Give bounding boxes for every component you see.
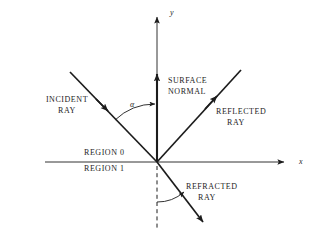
surface-normal-label-line2: NORMAL [168, 87, 226, 97]
angle-alpha-label: α [130, 100, 134, 110]
angle-of-refraction-arc [157, 192, 184, 202]
incident-ray-label-line2: RAY [36, 106, 98, 116]
angle-of-incidence-arc [115, 104, 155, 120]
refracted-ray-line [157, 162, 203, 222]
reflected-ray-label-line1: REFLECTED [216, 107, 286, 117]
refracted-ray-label-line2: RAY [198, 193, 272, 203]
reflected-ray-label-line2: RAY [227, 118, 297, 128]
x-axis-label: x [299, 157, 303, 167]
region-0-label: REGION 0 [84, 148, 148, 158]
surface-normal-label-line1: SURFACE [168, 76, 226, 86]
y-axis-label: y [170, 8, 174, 18]
ray-optics-diagram: y x α INCIDENT RAY SURFACE NORMAL REFLEC… [0, 0, 321, 243]
refracted-ray-label-line1: REFRACTED [186, 182, 260, 192]
incident-ray-label-line1: INCIDENT [36, 95, 98, 105]
region-1-label: REGION 1 [84, 164, 148, 174]
